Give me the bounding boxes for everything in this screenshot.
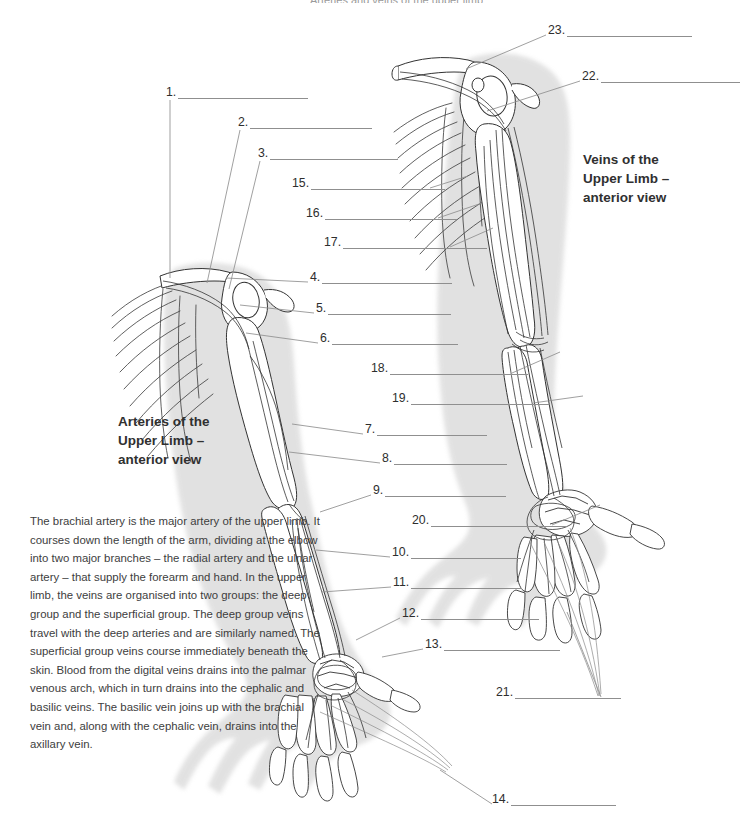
callout-answer-line-3[interactable] — [270, 149, 398, 160]
leader-line-13 — [382, 649, 423, 657]
callout-answer-line-7[interactable] — [377, 425, 487, 436]
callout-answer-line-15[interactable] — [311, 179, 445, 190]
callout-answer-line-17[interactable] — [343, 238, 487, 249]
callout-answer-line-13[interactable] — [444, 640, 560, 651]
callout-number-15: 15. — [292, 177, 310, 190]
callout-answer-line-8[interactable] — [394, 454, 507, 465]
callout-3[interactable]: 3. — [258, 147, 398, 160]
callout-answer-line-2[interactable] — [250, 118, 372, 129]
callout-answer-line-20[interactable] — [431, 516, 567, 527]
callout-number-5: 5. — [316, 302, 327, 315]
callout-6[interactable]: 6. — [320, 332, 458, 345]
callout-answer-line-23[interactable] — [567, 26, 692, 37]
callout-number-13: 13. — [425, 638, 443, 651]
callout-number-16: 16. — [306, 207, 324, 220]
callout-22[interactable]: 22. — [582, 70, 740, 83]
callout-answer-line-16[interactable] — [325, 209, 457, 220]
callout-answer-line-5[interactable] — [328, 304, 451, 315]
callout-7[interactable]: 7. — [365, 423, 487, 436]
page-title: Arteries and veins of the upper limb — [310, 0, 483, 3]
callout-12[interactable]: 12. — [402, 607, 539, 620]
callout-19[interactable]: 19. — [392, 392, 549, 405]
callout-answer-line-11[interactable] — [411, 578, 522, 589]
callout-answer-line-22[interactable] — [601, 72, 740, 83]
callout-16[interactable]: 16. — [306, 207, 457, 220]
leader-line-5 — [240, 305, 314, 313]
callout-14[interactable]: 14. — [492, 793, 616, 806]
leader-line-2 — [207, 130, 240, 283]
callout-answer-line-19[interactable] — [411, 394, 549, 405]
callout-number-11: 11. — [393, 576, 410, 589]
callout-17[interactable]: 17. — [324, 236, 487, 249]
callout-answer-line-10[interactable] — [411, 548, 521, 559]
description-paragraph: The brachial artery is the major artery … — [30, 512, 320, 754]
callout-number-12: 12. — [402, 607, 420, 620]
leader-line-10 — [316, 550, 390, 557]
arteries-section-heading: Arteries of the Upper Limb – anterior vi… — [118, 412, 210, 469]
callout-answer-line-6[interactable] — [332, 334, 458, 345]
callout-answer-line-4[interactable] — [322, 273, 452, 284]
leader-line-12 — [356, 618, 400, 640]
callout-number-1: 1. — [166, 86, 177, 99]
callout-23[interactable]: 23. — [548, 24, 692, 37]
callout-number-3: 3. — [258, 147, 269, 160]
callout-15[interactable]: 15. — [292, 177, 445, 190]
leader-line-7 — [292, 424, 363, 434]
callout-number-18: 18. — [371, 362, 389, 375]
leader-line-3 — [229, 161, 260, 289]
callout-number-9: 9. — [373, 484, 384, 497]
callout-answer-line-18[interactable] — [390, 364, 528, 375]
callout-10[interactable]: 10. — [392, 546, 521, 559]
callout-number-10: 10. — [392, 546, 410, 559]
leader-line-6 — [246, 333, 318, 343]
callout-9[interactable]: 9. — [373, 484, 506, 497]
veins-section-heading: Veins of the Upper Limb – anterior view — [583, 150, 669, 207]
callout-answer-line-21[interactable] — [515, 688, 621, 699]
callout-21[interactable]: 21. — [496, 686, 621, 699]
callout-18[interactable]: 18. — [371, 362, 528, 375]
callout-20[interactable]: 20. — [412, 514, 567, 527]
callout-number-17: 17. — [324, 236, 342, 249]
callout-number-2: 2. — [238, 116, 249, 129]
callout-answer-line-1[interactable] — [178, 88, 308, 99]
leader-line-11 — [322, 587, 391, 592]
callout-number-21: 21. — [496, 686, 514, 699]
callout-number-20: 20. — [412, 514, 430, 527]
callout-answer-line-12[interactable] — [421, 609, 539, 620]
leader-line-23 — [466, 35, 546, 69]
callout-number-19: 19. — [392, 392, 410, 405]
callout-answer-line-9[interactable] — [385, 486, 506, 497]
callout-number-7: 7. — [365, 423, 376, 436]
callout-13[interactable]: 13. — [425, 638, 560, 651]
callout-2[interactable]: 2. — [238, 116, 372, 129]
callout-number-14: 14. — [492, 793, 510, 806]
callout-number-8: 8. — [382, 452, 393, 465]
callout-number-22: 22. — [582, 70, 600, 83]
callout-11[interactable]: 11. — [393, 576, 522, 589]
leader-line-14 — [440, 770, 492, 804]
leader-line-22 — [487, 81, 580, 111]
callout-1[interactable]: 1. — [166, 86, 308, 99]
callout-4[interactable]: 4. — [310, 271, 452, 284]
leader-line-4 — [226, 278, 308, 282]
callout-5[interactable]: 5. — [316, 302, 451, 315]
callout-8[interactable]: 8. — [382, 452, 507, 465]
leader-line-21 — [567, 612, 601, 697]
callout-number-4: 4. — [310, 271, 321, 284]
leader-line-9 — [320, 495, 371, 512]
callout-number-6: 6. — [320, 332, 331, 345]
callout-answer-line-14[interactable] — [511, 795, 616, 806]
leader-line-8 — [289, 452, 380, 463]
callout-number-23: 23. — [548, 24, 566, 37]
